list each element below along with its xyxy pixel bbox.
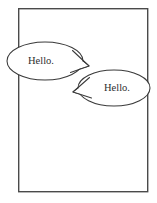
speech-bubble-right-text: Hello.: [104, 82, 130, 93]
comic-panel-scene: Hello. Hello.: [0, 0, 157, 203]
speech-bubble-left-text: Hello.: [28, 55, 54, 66]
panel-canvas: Hello. Hello.: [0, 0, 157, 203]
